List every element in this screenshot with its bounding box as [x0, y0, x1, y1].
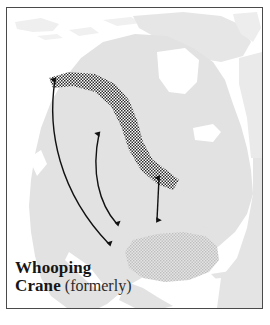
species-name-line1: Whooping — [15, 258, 91, 277]
species-name-line2: Crane — [15, 276, 61, 295]
caption-line-2: Crane (formerly) — [15, 277, 131, 295]
status-note: (formerly) — [65, 277, 132, 294]
whooping-crane-range-map: Whooping Crane (formerly) — [0, 0, 270, 325]
caption-line-1: Whooping — [15, 259, 131, 277]
map-caption: Whooping Crane (formerly) — [15, 259, 131, 296]
